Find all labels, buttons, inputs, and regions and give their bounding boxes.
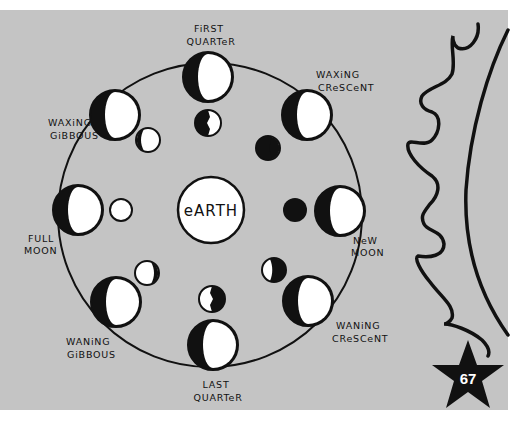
orbit-moon-waning-gibbous <box>91 277 141 327</box>
phase-view-last-quarter <box>199 286 225 312</box>
svg-text:WANiNG: WANiNG <box>336 320 380 331</box>
orbit-moon-waxing-crescent <box>282 90 332 140</box>
svg-text:CReSCeNT: CReSCeNT <box>318 82 374 93</box>
svg-text:FULL: FULL <box>28 233 54 244</box>
svg-text:WANiNG: WANiNG <box>66 336 110 347</box>
orbit-moon-waning-crescent <box>283 276 333 326</box>
svg-text:WAXiNG: WAXiNG <box>48 117 92 128</box>
earth-label: eARTH <box>184 202 238 220</box>
phase-view-full-moon <box>110 199 132 221</box>
orbit-moon-last-quarter <box>188 320 238 370</box>
earth: eARTH <box>178 177 244 243</box>
svg-text:WAXiNG: WAXiNG <box>316 69 360 80</box>
phase-view-waning-gibbous <box>135 261 159 285</box>
phase-view-waxing-crescent <box>256 136 280 160</box>
orbit-moon-new-moon <box>315 186 365 236</box>
phase-view-waxing-gibbous <box>136 128 160 152</box>
svg-text:LAST: LAST <box>202 379 229 390</box>
page-number: 67 <box>460 370 477 387</box>
svg-text:CReSCeNT: CReSCeNT <box>332 333 388 344</box>
orbit-moon-first-quarter <box>183 52 233 102</box>
svg-text:FiRST: FiRST <box>194 23 224 34</box>
svg-text:QUARTeR: QUARTeR <box>186 36 235 47</box>
label-full-moon: FULL MOON <box>24 233 57 256</box>
phase-view-new-moon <box>283 198 307 222</box>
orbit-moon-full-moon <box>53 185 103 235</box>
svg-text:QUARTeR: QUARTeR <box>193 392 242 403</box>
svg-text:MOON: MOON <box>351 247 384 258</box>
svg-text:MOON: MOON <box>24 245 57 256</box>
phase-view-first-quarter <box>195 110 221 136</box>
phase-view-waning-crescent <box>262 258 286 282</box>
svg-text:GiBBOUS: GiBBOUS <box>50 130 99 141</box>
moon-phases-diagram: eARTH <box>0 0 518 430</box>
svg-text:NeW: NeW <box>353 235 378 246</box>
svg-text:GiBBOUS: GiBBOUS <box>67 349 116 360</box>
